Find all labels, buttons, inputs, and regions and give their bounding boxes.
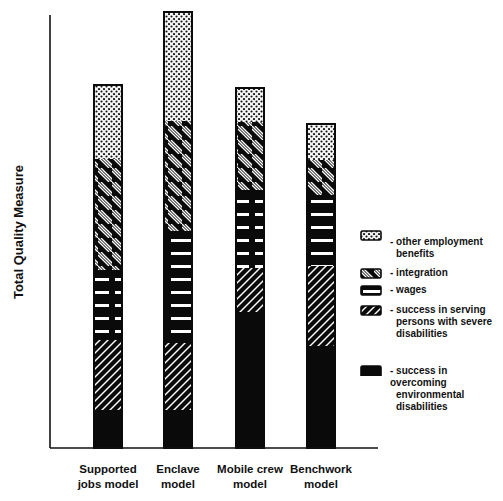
segment-forward-hatch	[307, 266, 335, 346]
segment-back-hatch	[94, 159, 122, 270]
bar-benchwork-model	[307, 124, 335, 448]
segment-solid	[164, 410, 192, 448]
legend-label: - integration	[390, 267, 503, 279]
segment-horizontal-bars	[236, 190, 264, 268]
segment-forward-hatch	[94, 340, 122, 410]
bar-supported-jobs-model	[94, 85, 122, 448]
legend-label: - wages	[390, 284, 503, 296]
x-category-label: Benchworkmodel	[276, 462, 366, 492]
segment-dots	[94, 85, 122, 159]
segment-back-hatch	[307, 160, 335, 195]
legend-swatch-icon	[360, 365, 382, 376]
legend-label: - success in servingpersons with severed…	[390, 304, 503, 340]
segment-horizontal-bars	[307, 195, 335, 266]
segment-horizontal-bars	[164, 231, 192, 343]
bar-enclave-model	[164, 12, 192, 448]
segment-back-hatch	[236, 122, 264, 190]
legend-swatch-icon	[360, 268, 382, 279]
legend-swatch-icon	[360, 230, 382, 241]
segment-forward-hatch	[164, 343, 192, 410]
segment-solid	[307, 346, 335, 448]
legend-swatch-icon	[360, 305, 382, 316]
segment-dots	[164, 12, 192, 121]
segment-back-hatch	[164, 121, 192, 231]
bars-group	[94, 12, 335, 448]
segment-dots	[307, 124, 335, 160]
segment-dots	[236, 88, 264, 122]
legend-label: - success in overcomingenvironmentaldisa…	[390, 365, 503, 413]
bar-mobile-crew-model	[236, 88, 264, 448]
segment-forward-hatch	[236, 268, 264, 312]
segment-solid	[94, 410, 122, 448]
legend-label: - other employmentbenefits	[390, 236, 503, 260]
segment-solid	[236, 312, 264, 448]
segment-horizontal-bars	[94, 270, 122, 340]
legend-swatch-icon	[360, 285, 382, 296]
